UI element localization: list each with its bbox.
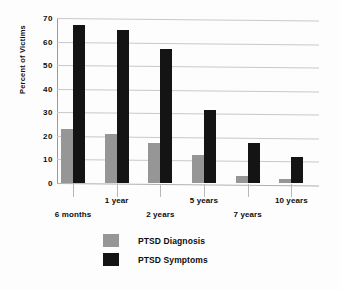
x-category-label: 5 years: [190, 196, 218, 205]
bar-diagnosis: [61, 129, 73, 183]
x-category-label: 1 year: [105, 196, 129, 205]
bar-symptoms: [117, 30, 129, 183]
x-tick-mark: [160, 184, 161, 197]
bar-symptoms: [160, 49, 172, 183]
bar-diagnosis: [105, 134, 117, 184]
bar-symptoms: [291, 157, 303, 183]
y-tick-label: 70: [27, 14, 53, 23]
bar-chart: Percent of Victims 010203040506070 6 mon…: [0, 0, 340, 290]
y-tick-label: 0: [27, 179, 53, 188]
bar-diagnosis: [192, 155, 204, 183]
bar-group: [192, 18, 216, 183]
y-tick-label: 50: [27, 61, 53, 70]
legend-swatch-symptoms: [103, 253, 119, 266]
bar-diagnosis: [148, 143, 160, 183]
y-tick-label: 10: [27, 155, 53, 164]
bar-symptoms: [73, 25, 85, 183]
x-category-label: 10 years: [275, 196, 308, 205]
legend-label: PTSD Diagnosis: [138, 236, 205, 246]
bar-diagnosis: [279, 179, 291, 183]
bar-groups: [57, 18, 319, 183]
x-tick-mark: [248, 184, 249, 197]
bar-group: [148, 18, 172, 183]
bar-group: [105, 18, 129, 183]
chart-legend: PTSD DiagnosisPTSD Symptoms: [103, 231, 208, 269]
x-category-label: 7 years: [234, 210, 262, 219]
bar-group: [236, 18, 260, 183]
y-axis-tick-labels: 010203040506070: [22, 18, 53, 183]
bar-group: [279, 18, 303, 183]
x-category-label: 6 months: [55, 210, 91, 219]
x-category-label: 2 years: [146, 210, 174, 219]
legend-label: PTSD Symptoms: [138, 255, 208, 265]
bar-symptoms: [248, 143, 260, 183]
plot-area: [57, 18, 319, 183]
y-tick-label: 60: [27, 37, 53, 46]
bar-symptoms: [204, 110, 216, 183]
bar-diagnosis: [236, 176, 248, 183]
legend-item: PTSD Diagnosis: [103, 231, 208, 250]
x-tick-mark: [73, 184, 74, 197]
gridline: [57, 183, 319, 187]
bar-group: [61, 18, 85, 183]
y-tick-label: 20: [27, 131, 53, 140]
legend-item: PTSD Symptoms: [103, 250, 208, 269]
y-tick-label: 30: [27, 108, 53, 117]
legend-swatch-diagnosis: [103, 234, 119, 247]
y-tick-label: 40: [27, 84, 53, 93]
